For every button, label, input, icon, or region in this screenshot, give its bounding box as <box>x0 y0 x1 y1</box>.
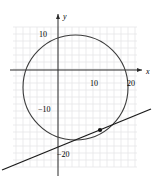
x-axis-label: x <box>146 67 150 76</box>
y-axis-label: y <box>63 12 67 21</box>
x-tick-20: 20 <box>127 79 135 88</box>
grid-lines <box>13 27 137 167</box>
x-axis-arrow <box>137 68 142 72</box>
coordinate-plane-figure: y x 10 −10 −20 10 20 <box>0 0 157 177</box>
x-tick-10: 10 <box>90 79 98 88</box>
y-tick-10: 10 <box>39 30 47 39</box>
y-tick-neg20: −20 <box>57 150 70 159</box>
y-axis-arrow <box>56 14 60 19</box>
tangent-point-marker <box>98 128 102 132</box>
y-tick-neg10: −10 <box>38 105 51 114</box>
